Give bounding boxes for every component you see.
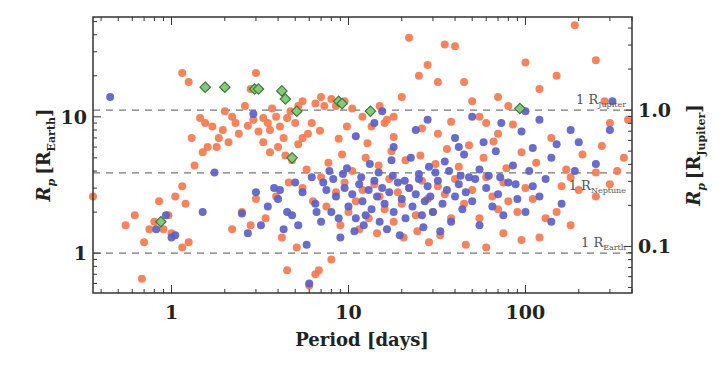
- data-point-diamond: [365, 106, 375, 116]
- data-point-orange: [553, 208, 561, 216]
- data-point-blue: [398, 195, 406, 203]
- x-tick-label: 1: [165, 301, 178, 323]
- data-point-blue: [348, 190, 356, 198]
- data-point-blue: [412, 190, 420, 198]
- data-point-blue: [426, 193, 434, 201]
- data-point-orange: [262, 214, 270, 222]
- y-left-tick-label: 1: [74, 242, 87, 264]
- data-point-orange: [283, 114, 291, 122]
- scatter-chart: 1101001100.11.0 1 RJupiter1 RNeptune1 RE…: [0, 0, 722, 369]
- data-point-blue: [482, 184, 490, 192]
- data-point-orange: [434, 78, 442, 86]
- data-point-blue: [291, 178, 299, 186]
- data-point-blue: [558, 200, 566, 208]
- data-point-blue: [211, 169, 219, 177]
- y-axis-title-right: Rp[RJupiter]: [683, 104, 708, 207]
- data-point-orange: [455, 163, 463, 171]
- data-point-orange: [592, 169, 600, 177]
- data-point-orange: [219, 126, 227, 134]
- data-point-blue: [385, 188, 393, 196]
- data-point-blue: [471, 175, 479, 183]
- data-point-orange: [241, 102, 249, 110]
- refline-label-neptune: 1 RNeptune: [569, 178, 627, 195]
- y-left-tick-label: 10: [61, 106, 87, 128]
- data-point-orange: [208, 122, 216, 130]
- data-point-blue: [381, 200, 389, 208]
- data-point-orange: [462, 241, 470, 249]
- data-point-blue: [357, 173, 365, 181]
- data-point-orange: [252, 69, 260, 77]
- data-point-orange: [291, 119, 299, 127]
- data-point-orange: [266, 148, 274, 156]
- data-point-orange: [343, 122, 351, 130]
- data-point-blue: [299, 188, 307, 196]
- data-point-orange: [434, 130, 442, 138]
- data-point-orange: [509, 120, 517, 128]
- data-point-blue: [492, 147, 500, 155]
- data-point-blue: [431, 169, 439, 177]
- data-point-blue: [402, 214, 410, 222]
- data-point-blue: [405, 184, 413, 192]
- data-point-orange: [562, 166, 570, 174]
- data-point-orange: [259, 138, 267, 146]
- data-point-blue: [311, 200, 319, 208]
- data-point-orange: [571, 21, 579, 29]
- data-point-blue: [335, 214, 343, 222]
- svg-text:Rp[REarth]: Rp[REarth]: [33, 108, 58, 202]
- data-point-blue: [443, 186, 451, 194]
- data-point-diamond: [200, 82, 210, 92]
- data-point-blue: [424, 116, 432, 124]
- data-point-blue: [553, 140, 561, 148]
- data-point-orange: [338, 150, 346, 158]
- data-point-orange: [272, 113, 280, 121]
- refline-label-jupiter: 1 RJupiter: [576, 92, 626, 109]
- data-point-orange: [244, 122, 252, 130]
- data-point-orange: [465, 141, 473, 149]
- data-point-orange: [390, 218, 398, 226]
- data-point-blue: [264, 202, 272, 210]
- data-point-blue: [497, 119, 505, 127]
- data-point-orange: [191, 161, 199, 169]
- data-point-orange: [613, 167, 621, 175]
- data-point-blue: [457, 172, 465, 180]
- data-point-orange: [276, 122, 284, 130]
- data-point-blue: [525, 167, 533, 175]
- data-point-blue: [419, 223, 427, 231]
- data-point-blue: [434, 177, 442, 185]
- data-point-orange: [398, 93, 406, 101]
- data-point-orange: [221, 107, 229, 115]
- data-point-blue: [485, 172, 493, 180]
- data-point-orange: [578, 150, 586, 158]
- data-point-orange: [518, 236, 526, 244]
- data-point-blue: [480, 138, 488, 146]
- data-point-blue: [274, 195, 282, 203]
- data-point-orange: [513, 208, 521, 216]
- data-point-orange: [567, 221, 575, 229]
- data-point-orange: [494, 130, 502, 138]
- data-point-blue: [567, 126, 575, 134]
- data-point-orange: [394, 188, 402, 196]
- data-point-blue: [344, 202, 352, 210]
- data-point-orange: [293, 243, 301, 251]
- data-point-orange: [122, 221, 130, 229]
- data-point-blue: [575, 138, 583, 146]
- data-point-blue: [412, 126, 420, 134]
- data-point-blue: [370, 177, 378, 185]
- data-point-blue: [518, 128, 526, 136]
- data-point-blue: [257, 221, 265, 229]
- data-point-blue: [529, 144, 537, 152]
- data-point-orange: [482, 119, 490, 127]
- refline-label-earth: 1 REarth: [581, 235, 626, 252]
- data-point-orange: [182, 200, 190, 208]
- data-point-blue: [370, 119, 378, 127]
- data-point-blue: [383, 225, 391, 233]
- data-point-orange: [447, 118, 455, 126]
- data-point-orange: [280, 134, 288, 142]
- data-point-blue: [152, 225, 160, 233]
- data-point-blue: [521, 208, 529, 216]
- data-point-blue: [389, 172, 397, 180]
- data-point-blue: [313, 208, 321, 216]
- data-point-blue: [319, 178, 327, 186]
- data-point-blue: [305, 279, 313, 287]
- data-point-blue: [341, 184, 349, 192]
